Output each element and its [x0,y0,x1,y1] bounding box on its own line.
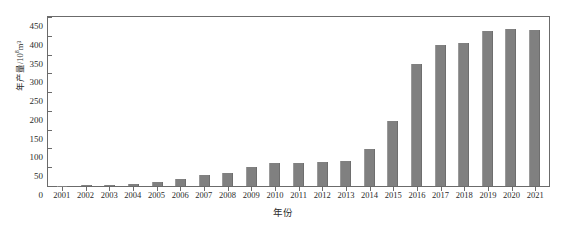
bar-2014 [364,149,375,186]
y-axis-tick-label: 100 [30,153,49,162]
bar-slot [452,17,476,186]
x-axis-tick-mark [441,187,442,191]
x-axis-tick-label: 2008 [216,187,240,205]
bar-2007 [199,175,210,186]
x-axis-tick-mark [370,187,371,191]
x-axis-tick-mark [488,187,489,191]
x-axis-tick-label: 2021 [523,187,547,205]
bar-slot [263,17,287,186]
bar-slot [75,17,99,186]
x-axis-tick-label: 2001 [50,187,74,205]
bar-2002 [81,185,92,186]
x-axis-title: 年份 [0,205,565,219]
bar-slot [51,17,75,186]
x-axis-tick-label: 2010 [263,187,287,205]
bar-slot [192,17,216,186]
x-axis-tick-label: 2019 [476,187,500,205]
bar-2011 [293,163,304,186]
plot-area: 050100150200250300350400450 [47,16,550,187]
x-axis-tick-mark [299,187,300,191]
x-axis-tick-label: 2015 [381,187,405,205]
x-axis-tick-label: 2011 [287,187,311,205]
y-axis-tick-label: 200 [30,115,49,124]
bar-slot [240,17,264,186]
x-axis-tick-label: 2009 [239,187,263,205]
x-axis-tick-mark [512,187,513,191]
bar-slot [358,17,382,186]
bar-slot [334,17,358,186]
x-axis-tick-label: 2003 [97,187,121,205]
x-axis-tick-label: 2014 [358,187,382,205]
bar-2003 [104,185,115,187]
y-axis-tick-label: 300 [30,78,49,87]
x-axis-tick-label: 2004 [121,187,145,205]
x-axis-tick-mark [393,187,394,191]
bar-slot [499,17,523,186]
x-axis-tick-label: 2005 [145,187,169,205]
bar-slot [216,17,240,186]
bar-slot [523,17,547,186]
bar-slot [381,17,405,186]
x-axis-tick-mark [62,187,63,191]
bar-2018 [458,43,469,186]
y-axis-tick-label: 450 [30,22,49,31]
x-axis-tick-label: 2016 [405,187,429,205]
y-axis-title-exponent: 8 [14,50,20,53]
bar-2008 [222,173,233,186]
bar-2012 [317,162,328,186]
x-axis-tick-mark [228,187,229,191]
bar-2004 [128,184,139,186]
x-axis-tick-mark [251,187,252,191]
x-axis-tick-mark [109,187,110,191]
bar-2017 [435,45,446,186]
y-axis-tick-label: 150 [30,134,49,143]
x-axis-tick-label: 2020 [500,187,524,205]
x-axis-tick-label: 2006 [168,187,192,205]
bar-chart: 年产量/108m³ 050100150200250300350400450 20… [0,0,565,231]
bar-2006 [175,179,186,186]
bar-slot [287,17,311,186]
y-axis-title-unit: m³ [15,41,25,50]
bar-slot [475,17,499,186]
y-axis-title-base: 年产量/10 [15,53,25,91]
x-axis-tick-mark [133,187,134,191]
y-axis-title: 年产量/108m³ [13,11,25,121]
bar-2009 [246,167,257,186]
x-axis-tick-label: 2017 [429,187,453,205]
x-axis-tick-mark [180,187,181,191]
bar-slot [98,17,122,186]
x-axis-tick-label: 2007 [192,187,216,205]
bar-2015 [387,121,398,186]
bar-slot [169,17,193,186]
x-axis-tick-label: 2013 [334,187,358,205]
x-axis-ticks: 2001200220032004200520062007200820092010… [47,187,550,205]
bar-2020 [505,29,516,186]
bar-slot [428,17,452,186]
bar-slot [405,17,429,186]
bar-slot [145,17,169,186]
x-axis-tick-mark [346,187,347,191]
x-axis-tick-mark [86,187,87,191]
x-axis-tick-mark [204,187,205,191]
x-axis-tick-mark [464,187,465,191]
x-axis-tick-mark [157,187,158,191]
y-axis-tick-label: 400 [30,40,49,49]
x-axis-tick-mark [322,187,323,191]
x-axis-tick-mark [275,187,276,191]
x-axis-tick-mark [535,187,536,191]
bar-2010 [269,163,280,186]
bar-2013 [340,161,351,186]
y-axis-tick-label: 250 [30,97,49,106]
y-axis-tick-label: 50 [34,172,48,181]
bar-2016 [411,64,422,186]
bar-slot [122,17,146,186]
bar-2021 [529,30,540,186]
bar-slot [310,17,334,186]
bar-2005 [152,182,163,187]
y-axis-tick-label: 350 [30,59,49,68]
x-axis-tick-mark [417,187,418,191]
bar-series [48,17,549,186]
x-axis-tick-label: 2002 [74,187,98,205]
x-axis-tick-label: 2012 [310,187,334,205]
x-axis-tick-label: 2018 [452,187,476,205]
